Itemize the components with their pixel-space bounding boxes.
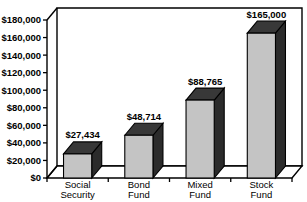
chart-axis-depth-edge: [47, 8, 57, 178]
y-axis-tick-label: $120,000: [1, 67, 41, 78]
bar-front-face: [64, 154, 92, 178]
category-label-line: Security: [60, 189, 95, 200]
y-axis-tick-label: $60,000: [7, 120, 41, 131]
category-label-line: Fund: [251, 189, 273, 200]
y-axis-tick-labels: $0$20,000$40,000$60,000$80,000$100,000$1…: [1, 14, 41, 183]
category-label-line: Fund: [189, 189, 211, 200]
bar-item: [186, 88, 224, 178]
bar-value-label: $27,434: [65, 129, 100, 140]
bar-side-face: [275, 21, 285, 178]
y-axis-tick-label: $160,000: [1, 32, 41, 43]
bar-front-face: [247, 33, 275, 178]
bar-front-face: [186, 100, 214, 178]
bar-item: [247, 21, 285, 178]
category-label-line: Fund: [128, 189, 150, 200]
bar-value-label: $48,714: [127, 111, 162, 122]
bar-front-face: [125, 135, 153, 178]
bar-item: [64, 142, 102, 178]
bar-chart-figure: $0$20,000$40,000$60,000$80,000$100,000$1…: [0, 0, 307, 202]
bar-value-label: $165,000: [247, 9, 287, 20]
bar-value-label: $88,765: [188, 76, 223, 87]
bar-side-face: [214, 88, 224, 178]
y-axis-tick-label: $100,000: [1, 85, 41, 96]
bar-item: [125, 123, 163, 178]
y-axis-tick-label: $20,000: [7, 155, 41, 166]
y-axis-tick-label: $40,000: [7, 137, 41, 148]
y-axis-tick-label: $80,000: [7, 102, 41, 113]
y-axis-tick-label: $0: [30, 172, 41, 183]
x-axis-category-labels: SocialSecurityBondFundMixedFundStockFund: [60, 179, 273, 200]
y-axis-tick-label: $180,000: [1, 14, 41, 25]
chart-canvas: $0$20,000$40,000$60,000$80,000$100,000$1…: [0, 0, 307, 202]
y-axis-tick-label: $140,000: [1, 50, 41, 61]
